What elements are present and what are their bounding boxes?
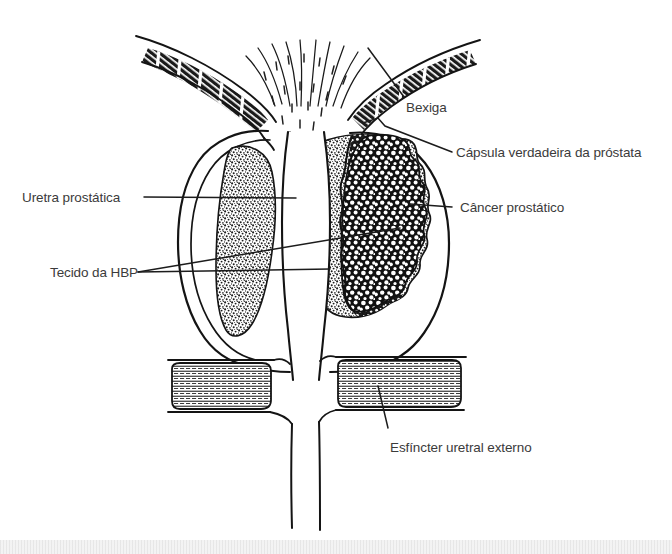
label-capsula-verdadeira: Cápsula verdadeira da próstata	[456, 145, 642, 160]
label-cancer-prostatico: Câncer prostático	[460, 200, 564, 215]
label-bexiga: Bexiga	[406, 100, 447, 115]
prostate-anatomy-diagram: Bexiga Cápsula verdadeira da próstata Câ…	[0, 0, 672, 554]
external-urethral-sphincter-left	[168, 358, 292, 424]
leader-uretra	[144, 197, 296, 198]
scan-artifact-band	[0, 540, 672, 554]
figure-canvas: Bexiga Cápsula verdadeira da próstata Câ…	[0, 0, 672, 554]
label-uretra-prostatica: Uretra prostática	[22, 190, 121, 205]
label-tecido-hbp: Tecido da HBP	[50, 265, 138, 280]
bladder-muscle-right	[340, 40, 490, 146]
prostatic-urethra-channel	[282, 132, 330, 380]
distal-urethra	[291, 422, 320, 530]
external-urethral-sphincter-right	[319, 356, 466, 422]
label-esfincter-uretral-externo: Esfíncter uretral externo	[390, 440, 532, 455]
